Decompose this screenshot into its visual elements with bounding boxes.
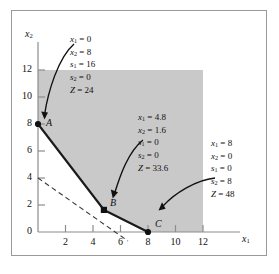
y-tick-6: 6 [8,144,32,155]
x-axis-label: x1 [242,233,250,244]
x-tick-2: 2 [54,236,78,247]
vertex-point-a [35,121,41,127]
y-tick-2: 2 [8,198,32,209]
y-tick-4: 4 [8,171,32,182]
annotation-row: Z = 48 [211,189,235,200]
x-tick-12: 12 [191,236,215,247]
solution-annotation-c: x1 = 8 x2 = 0 s1 = 0 s2 = 8 Z = 48 [211,138,235,200]
y-axis-label: x2 [25,28,33,39]
annotation-row: x2 = 1.6 [138,125,168,138]
vertex-point-b [101,207,107,213]
y-tick-0: 0 [8,225,32,236]
annotation-row: x2 = 0 [211,151,235,164]
y-tick-8: 8 [8,117,32,128]
vertex-label-a: A [46,117,52,128]
annotation-row: s2 = 0 [70,72,95,85]
annotation-row: s2 = 0 [138,150,168,163]
annotation-row: x2 = 8 [70,47,95,60]
vertex-label-b: B [110,197,116,208]
annotation-row: x1 = 0 [70,34,95,47]
annotation-row: s1 = 0 [138,137,168,150]
vertex-point-c [145,229,151,235]
annotation-row: Z = 33.6 [138,163,168,174]
x-tick-6: 6 [109,236,133,247]
annotation-row: s1 = 0 [211,163,235,176]
annotation-row: Z = 24 [70,85,95,96]
x-tick-8: 8 [136,236,160,247]
solution-annotation-a: x1 = 0 x2 = 8 s1 = 16 s2 = 0 Z = 24 [70,34,95,96]
linear-programming-graph-figure: x2 x1 12 10 8 6 4 2 0 2 4 6 8 10 12 A B … [0,0,279,274]
annotation-row: s2 = 8 [211,176,235,189]
feasible-region [38,70,203,232]
vertex-label-c: C [155,218,162,229]
y-tick-12: 12 [8,63,32,74]
solution-annotation-b: x1 = 4.8 x2 = 1.6 s1 = 0 s2 = 0 Z = 33.6 [138,112,168,174]
annotation-row: s1 = 16 [70,59,95,72]
x-tick-10: 10 [164,236,188,247]
annotation-row: x1 = 4.8 [138,112,168,125]
y-tick-10: 10 [8,90,32,101]
annotation-row: x1 = 8 [211,138,235,151]
x-tick-4: 4 [81,236,105,247]
